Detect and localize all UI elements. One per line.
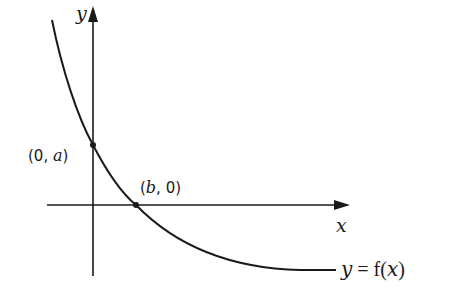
y-axis xyxy=(88,6,98,276)
y-axis-label: y xyxy=(75,2,87,24)
curve-equation-label: y = f(x) xyxy=(340,257,405,281)
x-intercept-label: (b, 0) xyxy=(140,178,181,197)
x-axis-label: x xyxy=(336,214,347,236)
x-axis-arrow-icon xyxy=(334,200,350,210)
point-x-intercept xyxy=(133,202,139,208)
y-intercept-label: (0, a) xyxy=(28,146,68,165)
y-axis-arrow-icon xyxy=(88,6,98,22)
point-y-intercept xyxy=(90,142,96,148)
function-graph: y x (0, a) (b, 0) y = f(x) xyxy=(0,0,455,297)
